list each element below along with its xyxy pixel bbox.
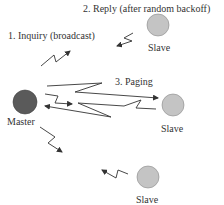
reply-signal-arrow (117, 33, 133, 46)
slave-bottom-node (137, 166, 159, 188)
slave-middle-label: Slave (161, 123, 183, 134)
bluetooth-inquiry-paging-diagram: 1. Inquiry (broadcast) 2. Reply (after r… (0, 0, 224, 205)
paging-response-arrow (45, 100, 156, 117)
reply-bottom-arrow (102, 170, 128, 178)
slave-bottom-label: Slave (136, 194, 158, 205)
paging-zigzag-arrow (45, 94, 72, 104)
inquiry-bottom-arrow (40, 127, 62, 152)
step-3-label: 3. Paging (115, 76, 153, 87)
slave-top-label: Slave (148, 42, 170, 53)
master-label: Master (7, 116, 35, 127)
master-node (13, 90, 37, 114)
inquiry-signal-arrow (41, 51, 70, 66)
step-2-label: 2. Reply (after random backoff) (83, 3, 210, 14)
step-1-label: 1. Inquiry (broadcast) (8, 30, 95, 41)
slave-middle-node (162, 94, 184, 116)
slave-top-node (147, 14, 169, 36)
